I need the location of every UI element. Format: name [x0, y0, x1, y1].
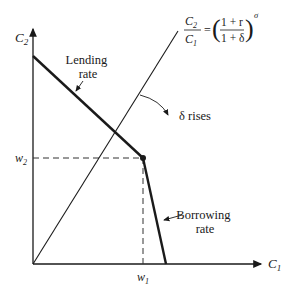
- consumption-ratio-equation: C2 C1 = ( 1 + r 1 + δ ) σ: [184, 10, 259, 48]
- svg-text:(: (: [212, 14, 221, 43]
- endowment-point: [140, 155, 146, 161]
- svg-text:C2: C2: [185, 14, 197, 30]
- svg-text:σ: σ: [254, 10, 259, 20]
- borrowing-rate-label: Borrowing rate: [176, 208, 233, 236]
- delta-rises-arrow: [140, 95, 168, 115]
- x-axis-label: C1: [268, 256, 281, 273]
- svg-text:1 + r: 1 + r: [221, 16, 243, 28]
- svg-text:C1: C1: [185, 32, 197, 48]
- borrowing-rate-line: [143, 158, 166, 264]
- y-axis-label: C2: [15, 30, 29, 47]
- svg-text:1 + δ: 1 + δ: [221, 32, 244, 44]
- svg-text:=: =: [204, 23, 211, 37]
- w1-tick-label: w1: [137, 270, 149, 286]
- lending-rate-label: Lending rate: [66, 53, 111, 81]
- delta-rises-label: δ rises: [179, 109, 211, 123]
- lending-pointer: [76, 81, 83, 91]
- svg-text:): ): [245, 14, 254, 43]
- w2-tick-label: w2: [15, 151, 27, 167]
- intertemporal-choice-diagram: C2 C1 w2 w1 Lending rate Borrowing rate …: [0, 0, 294, 296]
